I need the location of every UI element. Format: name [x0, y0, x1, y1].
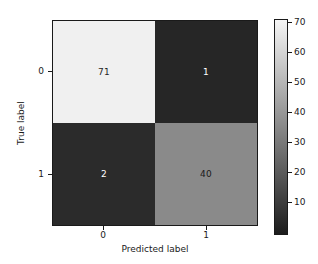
- x-tick-label-1: 1: [196, 230, 216, 240]
- colorbar-tick-mark-10: [288, 202, 292, 203]
- colorbar-gradient: [274, 19, 288, 235]
- y-tick-label-1: 1: [28, 169, 44, 179]
- matrix-cell-value: 40: [200, 170, 212, 179]
- colorbar: [274, 19, 288, 235]
- colorbar-tick-label-40: 40: [294, 107, 305, 117]
- colorbar-tick-mark-50: [288, 82, 292, 83]
- colorbar-tick-label-50: 50: [294, 77, 305, 87]
- matrix-cell-value: 2: [101, 170, 107, 179]
- y-tick-label-0: 0: [28, 66, 44, 76]
- colorbar-tick-mark-30: [288, 142, 292, 143]
- confusion-matrix-figure: 71 1 2 40 True label 0 1 0 1 Predicted l…: [0, 0, 318, 264]
- matrix-cell-0-0: 71: [53, 21, 155, 123]
- matrix-cell-1-1: 40: [155, 123, 257, 225]
- y-tick-mark-1: [48, 174, 52, 175]
- colorbar-tick-label-10: 10: [294, 197, 305, 207]
- colorbar-tick-label-70: 70: [294, 17, 305, 27]
- colorbar-tick-label-30: 30: [294, 137, 305, 147]
- colorbar-tick-mark-20: [288, 172, 292, 173]
- matrix-cell-value: 71: [98, 68, 110, 77]
- matrix-cell-1-0: 2: [53, 123, 155, 225]
- colorbar-tick-label-60: 60: [294, 47, 305, 57]
- matrix-cell-value: 1: [203, 68, 209, 77]
- colorbar-tick-label-20: 20: [294, 167, 305, 177]
- colorbar-tick-mark-70: [288, 22, 292, 23]
- x-tick-label-0: 0: [93, 230, 113, 240]
- colorbar-tick-mark-60: [288, 52, 292, 53]
- y-axis-label: True label: [14, 20, 28, 226]
- heatmap-plot-area: 71 1 2 40: [52, 20, 258, 226]
- x-axis-label: Predicted label: [52, 244, 258, 255]
- colorbar-tick-mark-40: [288, 112, 292, 113]
- y-tick-mark-0: [48, 71, 52, 72]
- matrix-cell-0-1: 1: [155, 21, 257, 123]
